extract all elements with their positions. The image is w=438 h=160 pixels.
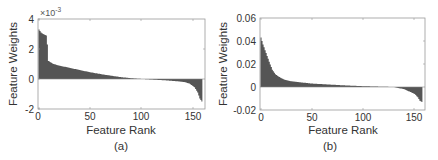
- y-axis-label: Feature Weights: [7, 22, 19, 106]
- ytick-label: 0: [28, 74, 34, 85]
- ytick-label: 0: [250, 82, 256, 93]
- chart-panel-b: 0 50 100 150 0.06 0.04 0.02 0 -0.02 Feat…: [217, 13, 425, 152]
- x-axis-label: Feature Rank: [86, 124, 156, 136]
- figure: 0 50 100 150 4 2 0 -2 ×10-3 Feature Rank…: [0, 0, 438, 160]
- ytick-label: -2: [25, 104, 34, 115]
- exponent-label: ×10-3: [40, 6, 61, 18]
- x-axis-label: Feature Rank: [308, 124, 378, 136]
- xtick-label: 100: [355, 112, 372, 123]
- ytick-label: 4: [28, 14, 34, 25]
- xtick-label: 150: [406, 112, 423, 123]
- ytick-label: 0.06: [237, 13, 257, 24]
- xtick-label: 150: [185, 111, 202, 122]
- ytick-label: 2: [28, 44, 34, 55]
- ytick-label: 0.02: [237, 59, 257, 70]
- panel-caption: (b): [323, 140, 337, 152]
- ytick-label: 0.04: [237, 36, 257, 47]
- xtick-label: 0: [258, 112, 264, 123]
- y-axis-label: Feature Weights: [217, 22, 229, 106]
- chart-panel-a: 0 50 100 150 4 2 0 -2 ×10-3 Feature Rank…: [7, 6, 205, 152]
- plot-area-b: [260, 18, 425, 110]
- ytick-label: -0.02: [233, 105, 256, 116]
- plot-area-a: [38, 19, 205, 109]
- panel-caption: (a): [114, 140, 128, 152]
- xtick-label: 50: [306, 112, 318, 123]
- xtick-label: 0: [35, 111, 41, 122]
- xtick-label: 50: [84, 111, 96, 122]
- xtick-label: 100: [133, 111, 150, 122]
